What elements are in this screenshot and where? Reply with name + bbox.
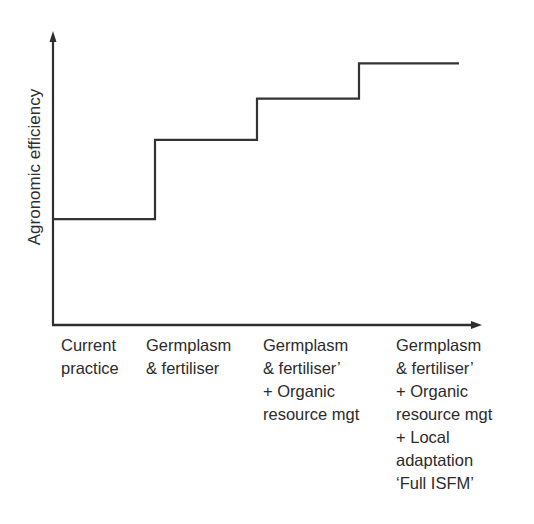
x-category-label-organic-resource-mgt: Germplasm & fertiliser’ + Organic resour… (263, 334, 359, 426)
y-axis-label: Agronomic efficiency (25, 89, 45, 246)
x-category-label-full-isfm: Germplasm & fertiliser’ + Organic resour… (396, 334, 492, 495)
x-category-label-current-practice: Current practice (61, 334, 119, 380)
x-axis-arrow-icon (471, 321, 482, 329)
y-axis-arrow-icon (50, 31, 57, 42)
efficiency-step-line (53, 63, 459, 219)
x-category-label-germplasm-fertiliser: Germplasm & fertiliser (146, 334, 231, 380)
